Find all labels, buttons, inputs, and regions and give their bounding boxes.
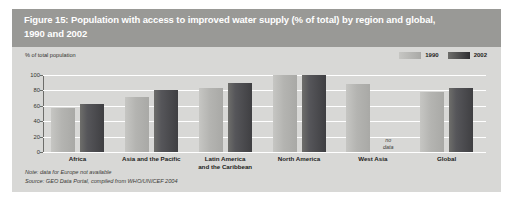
x-axis-label: Global bbox=[404, 155, 489, 163]
x-axis-label: Africa bbox=[35, 155, 120, 163]
bar-1990[interactable] bbox=[125, 97, 149, 152]
x-axis-label: Latin America and the Caribbean bbox=[183, 155, 268, 171]
legend-entry-1990: 1990 bbox=[399, 52, 438, 59]
bar-group: Asia and the Pacific bbox=[117, 75, 191, 152]
bar-2002[interactable] bbox=[302, 75, 326, 152]
bar-2002[interactable] bbox=[154, 90, 178, 152]
y-tick-mark-0 bbox=[40, 152, 43, 153]
y-axis-title: % of total population bbox=[25, 52, 76, 58]
bar-1990[interactable] bbox=[420, 92, 444, 152]
y-tick-label-80: 80 bbox=[34, 87, 40, 93]
x-axis-label: Asia and the Pacific bbox=[109, 155, 194, 163]
bar-2002[interactable] bbox=[449, 88, 473, 152]
footnote-note: Note: data for Europe not available bbox=[25, 168, 178, 177]
x-axis-label: West Asia bbox=[330, 155, 415, 163]
figure-title-band: Figure 15: Population with access to imp… bbox=[12, 9, 501, 47]
bar-group: Global bbox=[412, 75, 486, 152]
footnotes: Note: data for Europe not available Sour… bbox=[25, 168, 178, 186]
x-axis-label: North America bbox=[257, 155, 342, 163]
footnote-source: Source: GEO Data Portal, compiled from W… bbox=[25, 177, 178, 186]
legend-label-2002: 2002 bbox=[474, 52, 487, 59]
bar-1990[interactable] bbox=[346, 84, 370, 152]
no-data-label: no data bbox=[375, 137, 401, 150]
y-tick-label-100: 100 bbox=[30, 72, 40, 78]
bar-group: Africa bbox=[43, 75, 117, 152]
bar-group: North America bbox=[265, 75, 339, 152]
legend-swatch-1990 bbox=[399, 52, 421, 59]
chart-legend: 1990 2002 bbox=[399, 51, 487, 60]
bar-1990[interactable] bbox=[199, 88, 223, 152]
gridline-0 bbox=[43, 152, 486, 153]
y-tick-label-60: 60 bbox=[34, 103, 40, 109]
y-tick-label-40: 40 bbox=[34, 118, 40, 124]
plot-area: 020406080100 AfricaAsia and the PacificL… bbox=[43, 75, 486, 152]
bar-group: no dataWest Asia bbox=[338, 75, 412, 152]
bar-2002[interactable] bbox=[228, 83, 252, 152]
legend-entry-2002: 2002 bbox=[448, 52, 487, 59]
y-tick-label-20: 20 bbox=[34, 134, 40, 140]
bar-group: Latin America and the Caribbean bbox=[191, 75, 265, 152]
figure-title: Figure 15: Population with access to imp… bbox=[24, 13, 489, 40]
bar-1990[interactable] bbox=[273, 75, 297, 152]
legend-label-1990: 1990 bbox=[425, 52, 438, 59]
legend-swatch-2002 bbox=[448, 52, 470, 59]
bar-1990[interactable] bbox=[51, 108, 75, 152]
figure-card: Figure 15: Population with access to imp… bbox=[12, 9, 501, 192]
bar-2002[interactable] bbox=[80, 104, 104, 152]
